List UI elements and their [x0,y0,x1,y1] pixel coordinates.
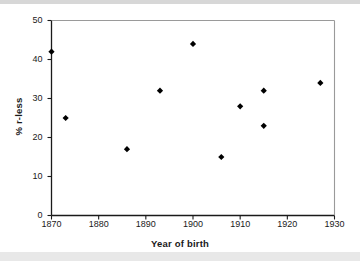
x-axis-tick-label: 1910 [220,219,260,229]
x-axis-tick-label: 1920 [267,219,307,229]
y-axis-tick-label: 50 [17,15,43,26]
x-axis-title: Year of birth [0,238,360,249]
data-point-marker [63,115,69,121]
data-point-marker [261,123,267,129]
data-point-marker [190,41,196,47]
data-point-group [48,41,323,160]
scatter-plot-figure: 1870188018901900191019201930 01020304050… [0,0,360,261]
y-axis-tick-label: 40 [17,54,43,65]
data-point-marker [237,103,243,109]
data-point-marker [218,154,224,160]
x-axis-tick-label: 1880 [79,219,119,229]
x-axis-tick-label: 1900 [173,219,213,229]
data-point-marker [261,88,267,94]
y-axis-title: % r-less [13,72,24,162]
data-point-marker [317,80,323,86]
y-axis-tick-label: 0 [17,210,43,221]
data-point-marker [157,88,163,94]
data-point-marker [48,49,54,55]
x-axis-tick-label: 1930 [315,219,355,229]
data-point-marker [124,146,130,152]
x-axis-tick-label: 1890 [126,219,166,229]
y-axis-tick-label: 10 [17,171,43,182]
